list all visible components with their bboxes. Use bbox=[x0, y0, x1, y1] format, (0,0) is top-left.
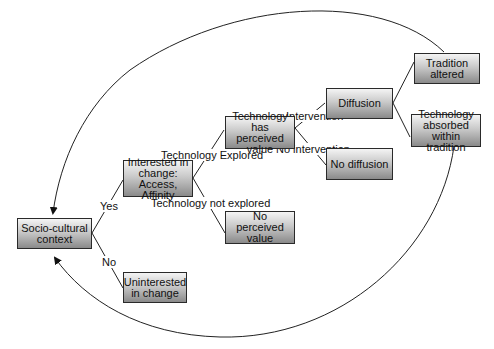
node-label: Socio-cultural context bbox=[20, 223, 89, 245]
node-tradition-altered: Tradition altered bbox=[414, 53, 480, 84]
node-socio-cultural-context: Socio-cultural context bbox=[17, 218, 92, 249]
node-label: Tradition altered bbox=[417, 58, 477, 80]
node-label: Interested in change: Access, Affinity bbox=[126, 157, 190, 201]
node-no-diffusion: No diffusion bbox=[326, 148, 393, 180]
node-label: Diffusion bbox=[338, 98, 381, 109]
node-technology-absorbed-within-tradition: Technology absorbed within tradition bbox=[411, 114, 481, 147]
diagram-canvas: Yes No Technology Explored Technology no… bbox=[0, 0, 494, 349]
node-technology-has-perceived-value: Technology has perceived value bbox=[225, 116, 295, 149]
edge-label-no: No bbox=[101, 256, 117, 268]
node-interested-in-change: Interested in change: Access, Affinity bbox=[123, 160, 193, 197]
node-label: Technology absorbed within tradition bbox=[414, 109, 478, 153]
edge-label-yes: Yes bbox=[99, 200, 119, 212]
node-label: No perceived value bbox=[228, 211, 292, 244]
node-no-perceived-value: No perceived value bbox=[225, 211, 295, 244]
node-label: Uninterested in change bbox=[124, 277, 186, 299]
node-diffusion: Diffusion bbox=[326, 88, 393, 119]
node-label: Technology has perceived value bbox=[228, 111, 292, 155]
node-uninterested-in-change: Uninterested in change bbox=[123, 272, 187, 303]
node-label: No diffusion bbox=[331, 159, 389, 170]
